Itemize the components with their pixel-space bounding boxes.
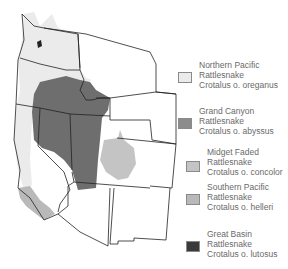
legend-common-name-line2: Rattlesnake	[207, 192, 252, 202]
legend-common-name-line2: Rattlesnake	[207, 157, 252, 167]
legend-common-name: Southern Pacific	[207, 182, 269, 192]
swatch-northern-pacific	[178, 72, 192, 83]
swatch-midget-faded	[186, 161, 200, 172]
legend-scientific-name: Crotalus o. oreganus	[199, 80, 278, 90]
swatch-great-basin	[186, 241, 200, 252]
swatch-grand-canyon	[178, 118, 192, 129]
legend-scientific-name: Crotalus o. lutosus	[207, 249, 277, 259]
legend-scientific-name: Crotalus o. abyssus	[199, 126, 274, 136]
legend-scientific-name: Crotalus o. helleri	[207, 202, 273, 212]
legend-scientific-name: Crotalus o. concolor	[207, 167, 283, 177]
southern-pacific-range	[18, 186, 55, 220]
legend-common-name-line2: Rattlesnake	[199, 70, 244, 80]
midget-faded-range	[100, 130, 136, 180]
legend-common-name-line2: Rattlesnake	[207, 239, 252, 249]
legend-common-name: Northern Pacific	[199, 60, 259, 70]
legend-common-name: Great Basin	[207, 229, 252, 239]
legend-common-name-line2: Rattlesnake	[199, 116, 244, 126]
legend-common-name: Midget Faded	[207, 147, 259, 157]
legend-common-name: Grand Canyon	[199, 106, 254, 116]
swatch-southern-pacific	[186, 194, 200, 205]
